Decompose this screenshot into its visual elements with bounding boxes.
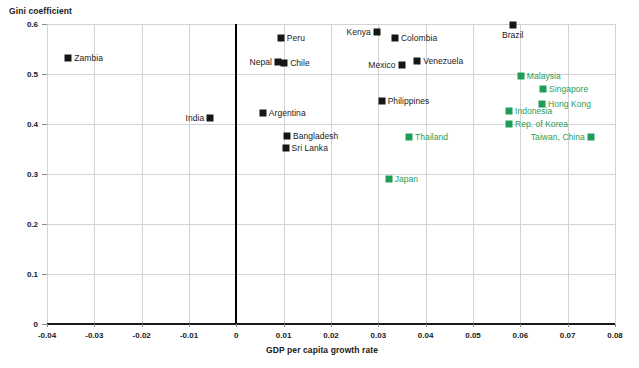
data-point-marker[interactable] (283, 132, 290, 139)
gridline-horizontal (47, 174, 615, 175)
data-point-label: Colombia (401, 33, 437, 43)
data-point-label: Venezuela (423, 56, 463, 66)
x-axis-title: GDP per capita growth rate (266, 345, 378, 355)
x-tick-mark (94, 324, 95, 327)
data-point-label: Brazil (502, 30, 524, 40)
data-point-label: Thailand (415, 132, 448, 142)
y-tick-label: 0.2 (27, 220, 38, 229)
x-tick-label: 0.05 (465, 331, 481, 340)
x-tick-mark (189, 324, 190, 327)
x-tick-label: 0.02 (323, 331, 339, 340)
data-point-marker[interactable] (282, 144, 289, 151)
x-tick-mark (615, 324, 616, 327)
x-tick-mark (426, 324, 427, 327)
data-point-label: Japan (395, 174, 418, 184)
x-tick-mark (520, 324, 521, 327)
data-point-label: Mexico (368, 60, 395, 70)
x-tick-mark (331, 324, 332, 327)
x-tick-label: 0 (234, 331, 238, 340)
data-point-marker[interactable] (587, 134, 594, 141)
zero-reference-line (235, 24, 237, 324)
data-point-label: Sri Lanka (292, 143, 328, 153)
scatter-chart-figure: Gini coefficient ZambiaIndiaPeruNepalChi… (0, 0, 639, 368)
data-point-label: Argentina (269, 108, 306, 118)
data-point-marker[interactable] (505, 108, 512, 115)
gridline-vertical (615, 24, 616, 324)
data-point-label: Zambia (74, 53, 103, 63)
gridline-horizontal (47, 24, 615, 25)
x-tick-label: 0.01 (276, 331, 292, 340)
data-point-marker[interactable] (391, 35, 398, 42)
x-tick-label: -0.02 (133, 331, 151, 340)
data-point-label: Taiwan, China (531, 132, 585, 142)
data-point-label: Bangladesh (293, 131, 338, 141)
y-tick-label: 0.1 (27, 270, 38, 279)
x-tick-mark (236, 324, 237, 327)
data-point-marker[interactable] (505, 121, 512, 128)
y-tick-mark (42, 224, 47, 225)
plot-area: ZambiaIndiaPeruNepalChileArgentinaBangla… (47, 24, 615, 324)
data-point-label: Singapore (549, 84, 588, 94)
data-point-marker[interactable] (281, 60, 288, 67)
x-tick-label: 0.03 (371, 331, 387, 340)
data-point-marker[interactable] (277, 34, 284, 41)
y-tick-mark (42, 74, 47, 75)
data-point-marker[interactable] (259, 109, 266, 116)
y-tick-mark (42, 24, 47, 25)
data-point-label: Peru (287, 33, 305, 43)
x-tick-label: -0.01 (180, 331, 198, 340)
data-point-marker[interactable] (517, 73, 524, 80)
data-point-label: India (186, 113, 205, 123)
y-tick-label: 0.4 (27, 120, 38, 129)
x-tick-label: 0.08 (607, 331, 623, 340)
data-point-label: Nepal (250, 57, 272, 67)
data-point-label: Hong Kong (548, 99, 591, 109)
data-point-marker[interactable] (373, 29, 380, 36)
y-tick-label: 0 (34, 320, 38, 329)
data-point-label: Indonesia (515, 106, 552, 116)
y-tick-label: 0.5 (27, 70, 38, 79)
data-point-marker[interactable] (414, 58, 421, 65)
gridline-horizontal (47, 274, 615, 275)
x-tick-label: 0.07 (560, 331, 576, 340)
data-point-marker[interactable] (385, 176, 392, 183)
y-tick-mark (42, 124, 47, 125)
x-tick-label: 0.04 (418, 331, 434, 340)
data-point-marker[interactable] (378, 98, 385, 105)
y-tick-label: 0.3 (27, 170, 38, 179)
y-tick-mark (42, 174, 47, 175)
data-point-marker[interactable] (509, 22, 516, 29)
x-tick-mark (47, 324, 48, 327)
x-tick-mark (378, 324, 379, 327)
x-tick-mark (473, 324, 474, 327)
data-point-marker[interactable] (65, 54, 72, 61)
data-point-marker[interactable] (207, 114, 214, 121)
data-point-label: Malaysia (527, 71, 561, 81)
data-point-marker[interactable] (406, 134, 413, 141)
data-point-marker[interactable] (540, 86, 547, 93)
y-tick-label: 0.6 (27, 20, 38, 29)
data-point-label: Philippines (388, 96, 430, 106)
data-point-label: Rep. of Korea (515, 119, 568, 129)
x-tick-label: -0.03 (85, 331, 103, 340)
x-tick-mark (142, 324, 143, 327)
x-tick-mark (568, 324, 569, 327)
y-tick-mark (42, 324, 47, 325)
data-point-label: Chile (290, 58, 310, 68)
data-point-marker[interactable] (398, 61, 405, 68)
data-point-label: Kenya (347, 27, 371, 37)
x-tick-mark (284, 324, 285, 327)
gridline-horizontal (47, 224, 615, 225)
x-tick-label: -0.04 (38, 331, 56, 340)
y-axis-title: Gini coefficient (9, 6, 72, 16)
y-tick-mark (42, 274, 47, 275)
x-tick-label: 0.06 (513, 331, 529, 340)
